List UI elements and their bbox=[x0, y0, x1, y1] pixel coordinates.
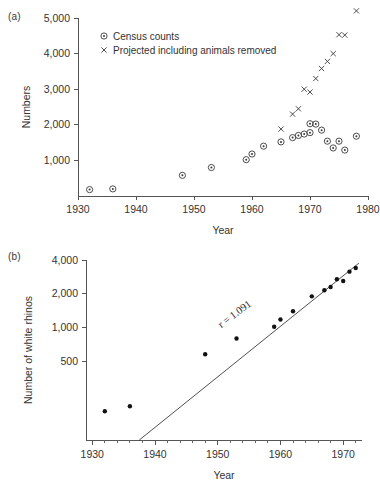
y-ticklabel-b-2000: 2,000 bbox=[52, 287, 78, 299]
x-ticklabel-a-1940: 1940 bbox=[124, 203, 148, 215]
x-ticklabel-b-1970: 1970 bbox=[332, 448, 356, 460]
series-rhino-counts-b bbox=[103, 266, 358, 414]
x-ticklabel-a-1970: 1970 bbox=[298, 203, 322, 215]
point-rhino-1 bbox=[128, 404, 132, 408]
point-rhino-7 bbox=[310, 294, 314, 298]
point-rhino-4 bbox=[272, 324, 276, 328]
point-census-8-center bbox=[292, 137, 294, 139]
legend-marker-census-center bbox=[103, 35, 105, 37]
figure-white-rhino-population: (a) 1,0002,0003,0004,0005,00019301940195… bbox=[0, 0, 380, 503]
legend-label-projected: Projected including animals removed bbox=[113, 45, 276, 56]
point-census-14-center bbox=[321, 129, 323, 131]
point-rhino-11 bbox=[341, 279, 345, 283]
legend-a: Census countsProjected including animals… bbox=[101, 31, 277, 56]
y-axis-title-b: Number of white rhinos bbox=[22, 296, 34, 404]
point-rhino-5 bbox=[278, 317, 282, 321]
point-rhino-12 bbox=[347, 269, 351, 273]
series-census-counts-a bbox=[87, 121, 360, 193]
point-census-9-center bbox=[297, 134, 299, 136]
point-census-18-center bbox=[344, 149, 346, 151]
point-census-12-center bbox=[309, 132, 311, 134]
x-ticklabel-a-1960: 1960 bbox=[240, 203, 264, 215]
y-ticklabel-a-4000: 4,000 bbox=[44, 47, 70, 59]
point-census-2-center bbox=[181, 174, 183, 176]
y-ticklabel-a-5000: 5,000 bbox=[44, 12, 70, 24]
point-census-10-center bbox=[303, 133, 305, 135]
point-census-6-center bbox=[263, 145, 265, 147]
chart-panel-b: (b) 5001,0002,0004,000193019401950196019… bbox=[0, 240, 380, 503]
panel-a-label: (a) bbox=[8, 11, 21, 22]
chart-panel-a: (a) 1,0002,0003,0004,0005,00019301940195… bbox=[0, 0, 380, 240]
point-census-3-center bbox=[210, 167, 212, 169]
y-axis-title-a: Numbers bbox=[20, 86, 32, 129]
axis-spines-b bbox=[86, 260, 362, 440]
point-rhino-0 bbox=[103, 409, 107, 413]
y-ticklabel-a-3000: 3,000 bbox=[44, 83, 70, 95]
point-census-5-center bbox=[251, 153, 253, 155]
x-ticklabel-b-1960: 1960 bbox=[269, 448, 293, 460]
point-rhino-13 bbox=[354, 266, 358, 270]
point-census-4-center bbox=[245, 159, 247, 161]
point-rhino-10 bbox=[335, 277, 339, 281]
series-projected-a bbox=[278, 8, 359, 131]
y-ticklabel-b-4000: 4,000 bbox=[52, 254, 78, 266]
point-rhino-2 bbox=[203, 352, 207, 356]
point-census-17-center bbox=[338, 140, 340, 142]
y-ticklabel-b-1000: 1,000 bbox=[52, 321, 78, 333]
point-rhino-8 bbox=[322, 288, 326, 292]
scatter-plot-a: 1,0002,0003,0004,0005,000193019401950196… bbox=[0, 0, 380, 240]
x-axis-title-a: Year bbox=[212, 224, 234, 236]
legend-label-census: Census counts bbox=[113, 31, 179, 42]
scatter-plot-b: 5001,0002,0004,00019301940195019601970Ye… bbox=[0, 240, 380, 503]
y-ticklabel-a-1000: 1,000 bbox=[44, 154, 70, 166]
point-rhino-6 bbox=[291, 309, 295, 313]
point-census-19-center bbox=[355, 135, 357, 137]
annotation-growth-rate: r = 1.091 bbox=[216, 298, 253, 330]
point-census-15-center bbox=[326, 140, 328, 142]
point-census-1-center bbox=[112, 188, 114, 190]
y-ticklabel-a-2000: 2,000 bbox=[44, 118, 70, 130]
x-ticklabel-b-1930: 1930 bbox=[81, 448, 105, 460]
point-rhino-3 bbox=[234, 336, 238, 340]
panel-b-label: (b) bbox=[8, 251, 21, 262]
point-census-0-center bbox=[89, 189, 91, 191]
x-ticklabel-b-1950: 1950 bbox=[206, 448, 230, 460]
x-axis-title-b: Year bbox=[213, 469, 235, 481]
x-ticklabel-a-1950: 1950 bbox=[182, 203, 206, 215]
x-ticklabel-b-1940: 1940 bbox=[143, 448, 167, 460]
point-rhino-9 bbox=[328, 285, 332, 289]
x-ticklabel-a-1980: 1980 bbox=[356, 203, 380, 215]
point-census-11-center bbox=[309, 123, 311, 125]
point-census-13-center bbox=[315, 123, 317, 125]
x-ticklabel-a-1930: 1930 bbox=[66, 203, 90, 215]
point-census-7-center bbox=[280, 141, 282, 143]
point-census-16-center bbox=[332, 147, 334, 149]
y-ticklabel-b-500: 500 bbox=[60, 355, 78, 367]
